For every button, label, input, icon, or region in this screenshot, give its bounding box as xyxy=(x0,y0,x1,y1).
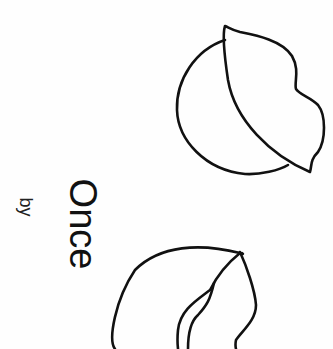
kernel-right xyxy=(236,252,256,349)
nut-with-leaf-icon xyxy=(177,26,324,174)
byline: by xyxy=(17,197,35,216)
kernel-left-inner xyxy=(188,283,214,349)
open-nut-icon xyxy=(112,247,256,349)
coloring-page: Once by xyxy=(0,0,333,349)
illustrations xyxy=(0,0,333,349)
page-title: Once xyxy=(64,179,102,270)
nut-circle xyxy=(177,40,288,174)
leaf-shape xyxy=(224,26,324,172)
